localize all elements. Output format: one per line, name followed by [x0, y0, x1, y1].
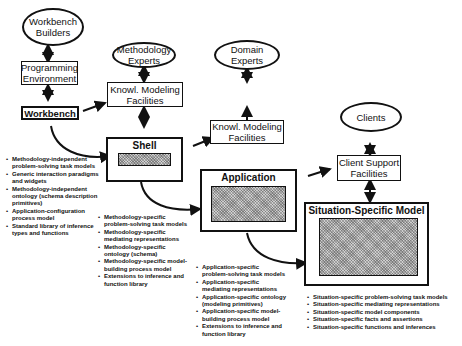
knowl-modeling-facilities-box-2: Knowl. Modeling Facilities: [210, 120, 284, 144]
domain-experts-ellipse: Domain Experts: [214, 40, 280, 70]
situation-specific-model-hatched-area: [319, 218, 418, 276]
application-frame: Application: [200, 169, 297, 232]
client-support-facilities-label: Client Support Facilities: [338, 157, 400, 179]
domain-experts-label: Domain Experts: [216, 44, 278, 66]
list-item: Methodology-specific ontology (schema): [98, 244, 188, 259]
shell-contents-list: Methodology-independent problem-solving …: [6, 156, 106, 237]
list-item: Application-specific mediating represent…: [196, 279, 286, 294]
shell-title: Shell: [108, 140, 181, 151]
knowl-modeling-facilities-box-1: Knowl. Modeling Facilities: [107, 82, 183, 107]
shell-hatched-area: [118, 153, 171, 166]
workbench-builders-ellipse: Workbench Builders: [22, 8, 84, 46]
knowl-modeling-facilities-label-1: Knowl. Modeling Facilities: [108, 84, 182, 106]
list-item: Extensions to inference and function lib…: [98, 273, 188, 288]
clients-ellipse: Clients: [340, 102, 402, 132]
list-item: Application-specific problem-solving tas…: [196, 264, 286, 279]
list-item: Methodology-specific problem-solving tas…: [98, 214, 188, 229]
methodology-contents-list: Methodology-specific problem-solving tas…: [98, 214, 188, 288]
workbench-box: Workbench: [21, 106, 79, 120]
shell-frame: Shell: [106, 137, 183, 182]
application-contents-list: Application-specific problem-solving tas…: [196, 264, 286, 338]
list-item: Standard library of inference types and …: [6, 223, 106, 238]
list-item: Methodology-independent ontology (schema…: [6, 186, 106, 208]
list-item: Situation-specific facts and assertions: [307, 316, 462, 323]
list-item: Generic interaction paradigms and widget…: [6, 171, 106, 186]
workbench-label: Workbench: [24, 108, 76, 119]
list-item: Methodology-independent problem-solving …: [6, 156, 106, 171]
knowl-modeling-facilities-label-2: Knowl. Modeling Facilities: [211, 121, 283, 143]
situation-specific-model-frame: Situation-Specific Model: [304, 202, 429, 286]
list-item: Situation-specific problem-solving task …: [307, 294, 462, 301]
list-item: Methodology-specific mediating represent…: [98, 229, 188, 244]
application-title: Application: [202, 172, 295, 183]
list-item: Methodology-specific model-building proc…: [98, 258, 188, 273]
client-support-facilities-box: Client Support Facilities: [337, 155, 401, 181]
programming-environment-box: Programming Environment: [21, 61, 78, 85]
list-item: Extensions to inference and function lib…: [196, 323, 286, 338]
list-item: Application-specific ontology (modeling …: [196, 294, 286, 309]
application-hatched-area: [211, 186, 286, 222]
list-item: Application-configuration process model: [6, 208, 106, 223]
list-item: Situation-specific functions and inferen…: [307, 324, 462, 331]
list-item: Situation-specific model components: [307, 309, 462, 316]
programming-environment-label: Programming Environment: [21, 62, 78, 84]
knowledge-modeling-diagram: Workbench Builders Methodology Experts D…: [0, 0, 462, 346]
methodology-experts-ellipse: Methodology Experts: [112, 42, 176, 68]
situation-specific-model-title: Situation-Specific Model: [306, 205, 427, 216]
clients-label: Clients: [356, 112, 385, 123]
list-item: Application-specific model-building proc…: [196, 308, 286, 323]
workbench-builders-label: Workbench Builders: [24, 16, 82, 38]
list-item: Situation-specific mediating representat…: [307, 301, 462, 308]
methodology-experts-label: Methodology Experts: [114, 44, 174, 66]
situation-contents-list: Situation-specific problem-solving task …: [307, 294, 462, 331]
